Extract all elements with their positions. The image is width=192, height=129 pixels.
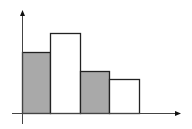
bars-group	[23, 34, 140, 114]
bar-chart	[0, 0, 192, 129]
bar-4	[110, 80, 140, 114]
bar-1	[23, 53, 51, 114]
x-axis-arrow-icon	[175, 111, 181, 116]
bar-2	[51, 34, 81, 114]
y-axis-arrow-icon	[20, 10, 25, 16]
bar-3	[81, 72, 110, 114]
